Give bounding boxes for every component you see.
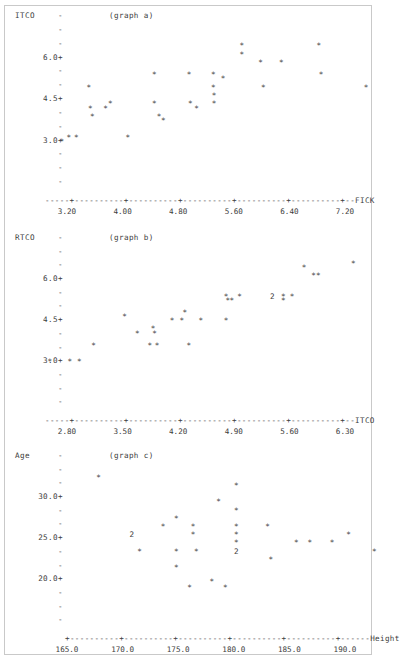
x-axis-tick-label: 7.20 [324, 207, 366, 216]
data-point: * [364, 84, 369, 92]
x-axis-tick-label: 190.0 [324, 645, 366, 654]
data-point: * [87, 84, 92, 92]
data-point: * [234, 482, 239, 490]
y-axis-tick-mark: - [19, 289, 63, 297]
y-axis-tick-mark: - [19, 178, 63, 186]
y-axis-tick-label: 4.5+ [19, 95, 63, 103]
data-point: * [316, 272, 321, 280]
data-point: * [137, 548, 142, 556]
data-point: * [187, 342, 192, 350]
y-axis-tick-mark: - [19, 344, 63, 352]
y-axis-tick-mark: - [19, 548, 63, 556]
y-axis-tick-mark: - [19, 398, 63, 406]
data-point-pair: 2 [270, 293, 275, 301]
x-axis-line: -----+----------+----------+----------+-… [45, 196, 375, 205]
y-axis-tick-label: 6.0+ [19, 54, 63, 62]
x-axis-tick-label: 6.40 [268, 207, 310, 216]
y-axis-tick-mark: - [19, 26, 63, 34]
y-axis-tick-mark: - [19, 616, 63, 624]
x-axis-line: -----+----------+----------+----------+-… [45, 416, 375, 425]
x-axis-line: +----------+----------+----------+------… [65, 634, 400, 643]
y-axis-tick-mark: - [19, 234, 63, 242]
data-point: * [108, 100, 113, 108]
y-axis-tick-mark: - [19, 150, 63, 158]
chart-title: (graph a) [109, 12, 154, 20]
y-axis-tick-mark: - [19, 603, 63, 611]
x-axis-tick-label: 3.50 [102, 427, 144, 436]
x-axis-tick-label: 4.00 [102, 207, 144, 216]
data-point: * [216, 498, 221, 506]
data-point: * [74, 134, 79, 142]
y-axis-tick-mark: - [19, 452, 63, 460]
chart-title: (graph c) [109, 452, 154, 460]
y-axis-tick-mark: - [19, 109, 63, 117]
data-point: * [261, 84, 266, 92]
data-point: * [223, 584, 228, 592]
y-axis-tick-label: 30.0+ [19, 493, 63, 501]
data-point: * [211, 71, 216, 79]
x-axis-tick-label: 4.90 [213, 427, 255, 436]
data-point: * [265, 523, 270, 531]
data-point: * [279, 59, 284, 67]
data-point: * [90, 113, 95, 121]
data-point: * [66, 134, 71, 142]
data-point: * [59, 138, 64, 146]
y-axis-tick-mark: - [19, 507, 63, 515]
data-point: * [281, 297, 286, 305]
y-axis-tick-mark: - [19, 81, 63, 89]
y-axis-tick-mark: - [19, 479, 63, 487]
x-axis-tick-label: 2.80 [46, 427, 88, 436]
y-axis-tick-mark: - [19, 67, 63, 75]
y-axis-tick-mark: - [19, 261, 63, 269]
data-point: * [234, 539, 239, 547]
x-axis-tick-label: 185.0 [268, 645, 310, 654]
data-point: * [290, 293, 295, 301]
data-point: * [48, 358, 53, 366]
y-axis-tick-label: 4.5+ [19, 316, 63, 324]
data-point: * [152, 330, 157, 338]
chart-title: (graph b) [109, 234, 154, 242]
data-point: * [88, 105, 93, 113]
y-axis-tick-label: 25.0+ [19, 534, 63, 542]
data-point: * [194, 548, 199, 556]
data-point: * [67, 358, 72, 366]
data-point: * [351, 260, 356, 268]
data-point: * [174, 515, 179, 523]
data-point: * [191, 531, 196, 539]
data-point: * [194, 105, 199, 113]
y-axis-tick-mark: - [19, 12, 63, 20]
x-axis-tick-label: 180.0 [213, 645, 255, 654]
x-axis-tick-label: 5.60 [268, 427, 310, 436]
y-axis-tick-label: 20.0+ [19, 575, 63, 583]
y-axis-tick-mark: - [19, 164, 63, 172]
y-axis-tick-mark: - [19, 385, 63, 393]
data-point: * [224, 317, 229, 325]
data-point: * [161, 523, 166, 531]
data-point: * [307, 539, 312, 547]
y-axis-tick-label: 3.0+ [19, 357, 63, 365]
y-axis-tick-mark: - [19, 589, 63, 597]
data-point: * [152, 71, 157, 79]
data-point: * [268, 556, 273, 564]
y-axis-tick-mark: - [19, 123, 63, 131]
output-frame: ITCO(graph a)---6.0+--4.5+--3.0+---*****… [4, 5, 372, 655]
data-point: * [152, 100, 157, 108]
data-point: * [239, 51, 244, 59]
x-axis-tick-label: 4.20 [157, 427, 199, 436]
data-point: * [319, 71, 324, 79]
data-point: * [148, 342, 153, 350]
data-point: * [179, 317, 184, 325]
y-axis-tick-mark: - [19, 302, 63, 310]
y-axis-tick-mark: - [19, 520, 63, 528]
y-axis-tick-mark: - [19, 562, 63, 570]
data-point: * [239, 42, 244, 50]
data-point: * [161, 117, 166, 125]
y-axis-tick-mark: - [19, 466, 63, 474]
data-point: * [346, 531, 351, 539]
data-point: * [210, 578, 215, 586]
data-point: * [372, 548, 377, 556]
data-point: * [229, 297, 234, 305]
x-axis-tick-label: 175.0 [157, 645, 199, 654]
data-point: * [174, 564, 179, 572]
data-point: * [170, 317, 175, 325]
